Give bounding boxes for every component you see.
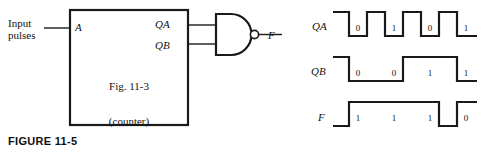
waveform-bit-qb-2: 1 xyxy=(421,68,439,78)
nand-gate-body xyxy=(216,14,251,55)
counter-block-caption-line1: Fig. 11-3 xyxy=(70,81,188,93)
waveform-bit-qb-3: 1 xyxy=(457,68,475,78)
waveform-bit-qb-1: 0 xyxy=(385,68,403,78)
waveform-bit-qa-2: 0 xyxy=(421,23,439,33)
counter-block-caption: Fig. 11-3 (counter) xyxy=(70,57,188,152)
waveform-label-f: F xyxy=(318,111,325,123)
input-pulses-label: Input pulses xyxy=(8,18,64,42)
waveform-label-qb: QB xyxy=(311,65,326,77)
port-label-qa: QA xyxy=(155,19,170,31)
waveform-bit-f-0: 1 xyxy=(349,113,367,123)
port-label-a: A xyxy=(75,22,82,34)
waveform-bit-f-1: 1 xyxy=(385,113,403,123)
figure-caption: FIGURE 11-5 xyxy=(8,136,77,148)
waveform-bit-qa-3: 1 xyxy=(457,23,475,33)
waveform-bit-qb-0: 0 xyxy=(349,68,367,78)
gate-output-label-f: F xyxy=(268,30,275,42)
waveform-label-qa: QA xyxy=(312,20,327,32)
waveform-bit-f-2: 1 xyxy=(421,113,439,123)
waveform-bit-f-3: 0 xyxy=(457,113,475,123)
waveform-bit-qa-0: 0 xyxy=(349,23,367,33)
counter-block-caption-line2: (counter) xyxy=(70,116,188,128)
nand-inversion-bubble xyxy=(250,30,258,38)
port-label-qb: QB xyxy=(155,40,170,52)
waveform-bit-qa-1: 1 xyxy=(385,23,403,33)
figure-canvas: Input pulses A QA QB Fig. 11-3 (counter)… xyxy=(0,0,483,157)
